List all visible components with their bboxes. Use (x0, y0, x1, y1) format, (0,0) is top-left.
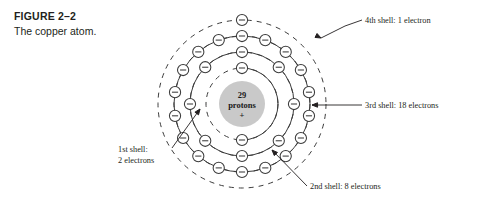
shell-4-callout-leader (321, 20, 362, 38)
shell-4-callout-text: 4th shell: 1 electron (365, 16, 432, 25)
electron-shell3-3 (280, 46, 291, 57)
shell-4-callout-arrowhead (315, 33, 321, 38)
electron-shell3-5 (303, 87, 314, 98)
copper-atom-diagram: 29protons+ 4th shell: 1 electron3rd shel… (0, 0, 478, 205)
figure-root: FIGURE 2–2 The copper atom. 29protons+ 4… (0, 0, 478, 205)
electron-shell2-3 (288, 98, 299, 109)
shell-3-callout-arrowhead (312, 103, 318, 107)
electron-shell2-6 (200, 135, 211, 146)
electron-shell3-12 (193, 150, 204, 161)
shell-2-callout-text: 2nd shell: 8 electrons (310, 182, 381, 191)
electron-shell3-15 (169, 87, 180, 98)
electron-shell2-7 (184, 98, 195, 109)
electron-shell3-4 (295, 64, 306, 75)
electron-shell2-4 (273, 135, 284, 146)
electron-shell1-2 (236, 134, 247, 145)
shell-3-callout-text: 3rd shell: 18 electrons (365, 101, 439, 110)
electron-shell3-16 (178, 64, 189, 75)
electron-shell2-1 (236, 46, 247, 57)
electron-shell1-1 (236, 62, 247, 73)
electron-shell2-5 (236, 150, 247, 161)
shell-1-callout-text: 1st shell:2 electrons (118, 145, 154, 165)
electron-shell3-9 (260, 162, 271, 173)
nucleus-group: 29protons+ (219, 81, 265, 127)
nucleus-count: 29 (238, 90, 247, 100)
electron-shell3-18 (213, 35, 224, 46)
electron-shell4-1 (236, 14, 247, 25)
shell-1-callout-arrowhead (195, 109, 200, 115)
electron-shell2-2 (273, 62, 284, 73)
electron-shell2-8 (200, 62, 211, 73)
electron-shell3-10 (236, 166, 247, 177)
electron-shell3-17 (193, 46, 204, 57)
nucleus-particle: protons (228, 100, 256, 110)
nucleus-charge: + (240, 110, 245, 120)
electron-shell3-7 (295, 132, 306, 143)
electron-shell3-11 (213, 162, 224, 173)
electron-shell3-6 (303, 110, 314, 121)
electron-shell3-14 (169, 110, 180, 121)
electron-shell3-1 (236, 30, 247, 41)
electron-shell3-2 (260, 35, 271, 46)
